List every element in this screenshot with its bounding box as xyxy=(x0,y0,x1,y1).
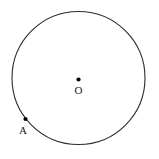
point-o-label: O xyxy=(75,84,83,96)
circle-diagram-canvas: O A xyxy=(0,0,159,159)
point-a-label: A xyxy=(19,124,27,136)
geometry-figure: O A xyxy=(0,0,159,159)
point-o-marker xyxy=(76,77,80,81)
point-a-marker xyxy=(23,117,27,121)
